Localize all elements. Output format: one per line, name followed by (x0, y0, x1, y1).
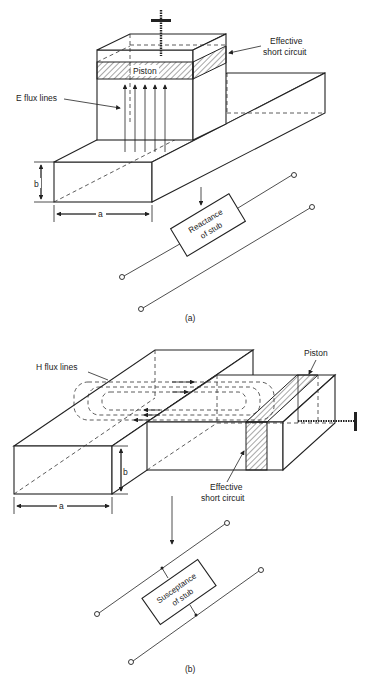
piston-label-a: Piston (133, 66, 157, 76)
effective-short-circuit-label-b-1: Effective (210, 482, 243, 492)
figure-b: H flux lines Piston Effective short circ… (14, 348, 357, 674)
svg-text:b: b (34, 179, 39, 189)
reactance-box: Reactance of stub (171, 194, 246, 256)
piston-handle-icon (151, 19, 171, 22)
terminal-icon (120, 275, 125, 280)
svg-text:a: a (98, 209, 103, 219)
svg-text:b: b (123, 467, 128, 477)
caption-a: (a) (185, 313, 196, 323)
stub-waveguide-a: Piston (97, 10, 226, 140)
caption-b: (b) (185, 664, 196, 674)
svg-text:a: a (59, 501, 64, 511)
waveguide-stub-diagram: Piston E flux lines Effective short circ… (0, 0, 370, 678)
equivalent-circuit-b: Susceptance of stub (95, 521, 264, 665)
short-circuit-leader-a (229, 46, 261, 53)
terminal-icon (95, 612, 100, 617)
susceptance-box: Susceptance of stub (142, 559, 216, 624)
h-flux-leader (88, 372, 108, 380)
e-flux-lines-label: E flux lines (16, 93, 57, 103)
terminal-icon (225, 521, 230, 526)
terminal-icon (139, 307, 144, 312)
effective-short-circuit-label-a-1: Effective (270, 36, 303, 46)
dimension-a-a: a (54, 205, 152, 222)
piston-leader-b (309, 360, 316, 374)
figure-a: Piston E flux lines Effective short circ… (16, 10, 325, 323)
dimension-a-b: a (14, 497, 112, 514)
piston-handle-icon (354, 412, 357, 431)
effective-short-circuit-label-a-2: short circuit (263, 47, 307, 57)
terminal-icon (292, 173, 297, 178)
piston-label-b: Piston (304, 348, 328, 358)
terminal-icon (310, 205, 315, 210)
dimension-b-a: b (33, 162, 54, 202)
h-flux-lines-label: H flux lines (36, 362, 78, 372)
terminal-icon (259, 568, 264, 573)
effective-short-circuit-label-b-2: short circuit (201, 493, 245, 503)
terminal-icon (129, 660, 134, 665)
